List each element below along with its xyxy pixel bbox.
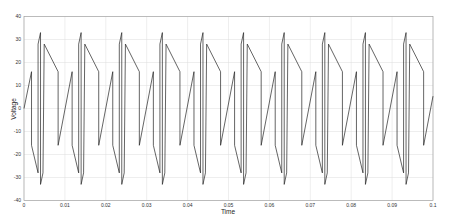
x-tick-label: 0 <box>23 202 26 208</box>
x-tick-label: 0.07 <box>305 202 315 208</box>
x-tick-label: 0.08 <box>346 202 356 208</box>
y-axis-label: Voltage <box>10 98 18 120</box>
x-tick-label: 0.1 <box>430 202 437 208</box>
x-tick-label: 0.02 <box>101 202 111 208</box>
x-tick-label: 0.09 <box>387 202 397 208</box>
y-tick-label: 40 <box>15 13 21 19</box>
y-tick-label: -20 <box>14 151 21 157</box>
grid-lines <box>24 17 433 201</box>
x-tick-label: 0.03 <box>142 202 152 208</box>
x-tick-label: 0.06 <box>265 202 275 208</box>
y-tick-label: -10 <box>14 128 21 134</box>
y-tick-label: 30 <box>15 36 21 42</box>
y-tick-label: 20 <box>15 59 21 65</box>
x-axis-label: Time <box>221 208 236 215</box>
y-tick-label: 10 <box>15 82 21 88</box>
voltage-chart: 00.010.020.030.040.050.060.070.080.090.1… <box>0 0 451 224</box>
x-tick-label: 0.01 <box>60 202 70 208</box>
y-tick-label: 0 <box>18 105 21 111</box>
y-tick-label: -40 <box>14 197 21 203</box>
y-tick-label: -30 <box>14 174 21 180</box>
x-tick-label: 0.04 <box>183 202 193 208</box>
